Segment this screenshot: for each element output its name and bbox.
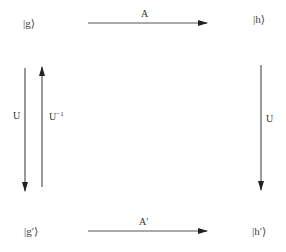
node-g: |g⟩ xyxy=(23,17,35,30)
node-h-prime: |h′⟩ xyxy=(252,225,266,238)
label-U-inverse-exponent: −1 xyxy=(56,110,63,118)
label-U-left: U xyxy=(13,110,20,121)
commutative-diagram-arrows xyxy=(0,0,286,252)
node-g-prime: |g′⟩ xyxy=(24,225,38,238)
node-h: |h⟩ xyxy=(253,13,265,26)
label-U-inverse: U−1 xyxy=(49,110,64,122)
label-A: A xyxy=(141,8,148,19)
label-A-prime: A′ xyxy=(139,216,148,227)
label-U-right: U xyxy=(266,113,273,124)
